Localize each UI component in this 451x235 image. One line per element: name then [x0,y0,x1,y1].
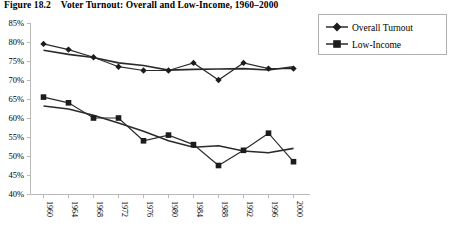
y-tick-label: 45% [8,170,24,180]
data-series-layer [40,41,296,169]
y-tick-label: 65% [8,94,24,104]
data-point-diamond [265,65,271,71]
data-point-square [291,159,297,165]
y-tick-label: 50% [8,151,24,161]
data-point-diamond [165,67,171,73]
y-tick-label: 80% [8,37,24,47]
x-tick-label: 1992 [245,201,254,217]
figure-container: Figure 18.2Voter Turnout: Overall and Lo… [0,0,451,235]
square-icon [333,40,341,48]
y-tick-label: 55% [8,132,24,142]
data-point-square [216,163,222,169]
y-tick-label: 75% [8,56,24,66]
data-point-square [91,115,97,121]
x-tick-label: 1972 [120,201,129,217]
data-point-diamond [65,46,71,52]
y-tick-label: 85% [8,18,24,28]
data-point-square [166,132,172,138]
chart-legend: Overall Turnout Low-Income [319,15,447,55]
data-point-square [66,100,72,106]
y-axis-labels: 85% 80% 75% 70% 65% 60% 55% 50% 45% 40% [8,18,24,199]
x-tick-label: 1964 [70,201,79,217]
x-tick-label: 1968 [95,201,104,217]
x-tick-label: 1960 [45,201,54,217]
x-axis-labels: 1960 1964 1968 1972 1976 1980 1984 1988 … [45,201,304,217]
series-overall-turnout [40,41,296,83]
x-tick-label: 1984 [195,201,204,217]
x-tick-label: 1976 [145,201,154,217]
y-tick-label: 60% [8,113,24,123]
series-low-income [41,94,297,168]
data-point-square [266,130,272,136]
data-point-square [41,94,47,100]
data-point-diamond [90,54,96,60]
y-tick-label: 70% [8,75,24,85]
series-line [44,97,294,165]
y-tick-label: 40% [8,189,24,199]
x-tick-label: 1996 [270,201,279,217]
data-point-square [191,142,197,148]
chart-plot: 85% 80% 75% 70% 65% 60% 55% 50% 45% 40% [0,0,451,235]
data-point-diamond [40,41,46,47]
series-line [44,44,294,80]
data-point-square [141,138,147,144]
x-axis [31,195,311,199]
trend-line [44,106,294,153]
data-point-square [241,148,247,154]
y-axis [27,23,31,195]
x-tick-label: 1980 [170,201,179,217]
legend-label-lowincome: Low-Income [352,40,401,50]
legend-label-overall: Overall Turnout [352,23,413,33]
data-point-diamond [140,67,146,73]
data-point-diamond [115,64,121,70]
x-tick-label: 2000 [295,201,304,217]
x-tick-label: 1988 [220,201,229,217]
data-point-square [116,115,122,121]
